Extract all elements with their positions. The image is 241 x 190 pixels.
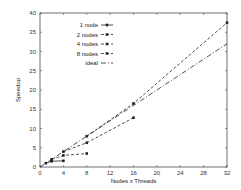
legend-marker (106, 52, 109, 55)
y-tick-label: 35 (29, 29, 36, 35)
y-tick-label: 5 (33, 145, 37, 151)
x-tick-label: 0 (38, 170, 42, 176)
legend-label: 2 nodes (77, 32, 98, 38)
x-tick-label: 28 (200, 170, 207, 176)
speedup-chart: 0481216202428320510152025303540Nodes x T… (0, 0, 241, 190)
plot-frame (40, 13, 227, 167)
data-point (62, 154, 65, 157)
y-tick-label: 10 (29, 126, 36, 132)
x-axis-label: Nodes x Threads (111, 178, 157, 184)
y-tick-label: 25 (29, 68, 36, 74)
y-tick-label: 30 (29, 49, 36, 55)
y-tick-label: 15 (29, 106, 36, 112)
data-point (45, 162, 48, 165)
data-point (132, 116, 135, 119)
series-line (40, 44, 227, 167)
x-tick-label: 4 (62, 170, 66, 176)
x-tick-label: 24 (177, 170, 184, 176)
y-tick-label: 20 (29, 87, 36, 93)
x-tick-label: 16 (130, 170, 137, 176)
legend-label: 4 nodes (77, 41, 98, 47)
x-tick-label: 8 (85, 170, 89, 176)
y-axis-label: Speedup (15, 77, 21, 102)
series-line (52, 154, 87, 160)
data-point (85, 141, 88, 144)
data-point (226, 21, 229, 24)
series-line (63, 118, 133, 152)
y-tick-label: 40 (29, 10, 36, 16)
x-tick-label: 12 (107, 170, 114, 176)
series-line (87, 23, 227, 137)
data-point (85, 152, 88, 155)
legend-label: 1 node (80, 22, 99, 28)
x-tick-label: 32 (224, 170, 231, 176)
x-tick-label: 20 (154, 170, 161, 176)
legend-marker (106, 24, 109, 27)
y-tick-label: 0 (33, 164, 37, 170)
legend-marker (106, 43, 109, 46)
legend-label: ideal (85, 60, 98, 66)
data-point (62, 160, 65, 163)
legend-marker (106, 33, 109, 36)
legend-label: 8 nodes (77, 51, 98, 57)
